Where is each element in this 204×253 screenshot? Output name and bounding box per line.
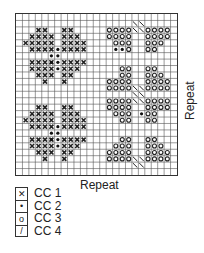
dot-symbol-icon: • bbox=[15, 200, 28, 213]
chart-grid-svg bbox=[16, 14, 177, 175]
legend-item-cc4: / CC 4 bbox=[15, 225, 61, 238]
x-symbol-icon: ✕ bbox=[15, 187, 28, 200]
legend: ✕ CC 1 • CC 2 o CC 3 / CC 4 bbox=[15, 187, 61, 237]
legend-item-cc1: ✕ CC 1 bbox=[15, 187, 61, 200]
legend-label: CC 4 bbox=[34, 225, 61, 237]
legend-item-cc3: o CC 3 bbox=[15, 212, 61, 225]
colorwork-chart-grid bbox=[15, 13, 178, 176]
legend-label: CC 1 bbox=[34, 187, 61, 199]
slash-symbol-icon: / bbox=[15, 225, 28, 238]
repeat-horizontal-label: Repeat bbox=[80, 178, 119, 192]
legend-item-cc2: • CC 2 bbox=[15, 200, 61, 213]
circle-symbol-icon: o bbox=[15, 212, 28, 225]
repeat-vertical-label: Repeat bbox=[183, 81, 197, 120]
legend-label: CC 3 bbox=[34, 212, 61, 224]
legend-label: CC 2 bbox=[34, 200, 61, 212]
